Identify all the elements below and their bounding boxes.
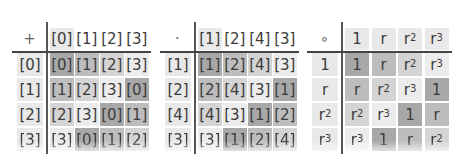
table-cell: [2] xyxy=(248,128,272,151)
table-cell: [4] xyxy=(248,53,272,76)
cayley-table-rotation-composition: ∘1rr2r311rr2r3rrr2r31r2r2r31rr3r31rr2 xyxy=(310,28,451,154)
operator-symbol: · xyxy=(163,28,192,50)
column-header: [2] xyxy=(100,28,124,50)
table-cell: r3 xyxy=(372,103,396,126)
table-cell: [0] xyxy=(75,128,99,151)
horizontal-divider xyxy=(12,51,151,53)
table-cell: r2 xyxy=(372,78,396,101)
horizontal-divider xyxy=(307,51,452,53)
table-cell: [1] xyxy=(273,78,297,101)
row-header: [3] xyxy=(165,128,191,151)
table-cell: [2] xyxy=(125,128,149,151)
row-header: r3 xyxy=(312,128,338,151)
column-header: r xyxy=(372,28,396,50)
table-cell: [1] xyxy=(100,128,124,151)
table-cell: [3] xyxy=(100,78,124,101)
horizontal-divider xyxy=(160,51,299,53)
table-cell: [1] xyxy=(50,78,74,101)
table-cell: [0] xyxy=(50,53,74,76)
table-cell: [3] xyxy=(75,103,99,126)
row-header: 1 xyxy=(312,53,338,76)
row-header: [1] xyxy=(165,53,191,76)
row-header: [0] xyxy=(17,53,43,76)
row-header: r xyxy=(312,78,338,101)
table-cell: 1 xyxy=(345,53,369,76)
column-header: [0] xyxy=(50,28,74,50)
row-header: [2] xyxy=(165,78,191,101)
table-cell: [1] xyxy=(223,128,247,151)
column-header: [4] xyxy=(248,28,272,50)
row-header: [3] xyxy=(17,128,43,151)
column-header: [3] xyxy=(125,28,149,50)
table-cell: [3] xyxy=(125,53,149,76)
table-cell: r xyxy=(398,128,422,151)
table-cell: [0] xyxy=(100,103,124,126)
table-cell: r2 xyxy=(425,128,449,151)
column-header: r2 xyxy=(398,28,422,50)
operator-symbol: + xyxy=(15,28,44,50)
table-cell: [2] xyxy=(75,78,99,101)
table-cell: 1 xyxy=(398,103,422,126)
column-header: 1 xyxy=(345,28,369,50)
table-cell: 1 xyxy=(372,128,396,151)
table-cell: [3] xyxy=(198,128,222,151)
cayley-table-addition-mod-4: +[0][1][2][3][0][0][1][2][3][1][1][2][3]… xyxy=(15,28,150,154)
table-cell: [2] xyxy=(273,103,297,126)
table-cell: r3 xyxy=(425,53,449,76)
table-cell: r2 xyxy=(345,103,369,126)
table-cell: [1] xyxy=(125,103,149,126)
cayley-table-multiplication-mod-5: ·[1][2][4][3][1][1][2][4][3][2][2][4][3]… xyxy=(163,28,298,154)
column-header: [3] xyxy=(273,28,297,50)
row-header: r2 xyxy=(312,103,338,126)
row-header: [1] xyxy=(17,78,43,101)
table-cell: r xyxy=(345,78,369,101)
table-cell: [0] xyxy=(125,78,149,101)
table-cell: [2] xyxy=(100,53,124,76)
vertical-divider xyxy=(46,22,48,154)
table-cell: [2] xyxy=(198,78,222,101)
table-cell: r xyxy=(425,103,449,126)
row-header: [2] xyxy=(17,103,43,126)
table-cell: [4] xyxy=(273,128,297,151)
column-header: [1] xyxy=(198,28,222,50)
table-cell: [3] xyxy=(273,53,297,76)
table-cell: [1] xyxy=(248,103,272,126)
table-cell: [2] xyxy=(50,103,74,126)
column-header: r3 xyxy=(425,28,449,50)
table-cell: r2 xyxy=(398,53,422,76)
table-cell: 1 xyxy=(425,78,449,101)
table-cell: [4] xyxy=(198,103,222,126)
table-cell: r3 xyxy=(398,78,422,101)
table-cell: [2] xyxy=(223,53,247,76)
table-cell: [3] xyxy=(50,128,74,151)
column-header: [1] xyxy=(75,28,99,50)
table-cell: r xyxy=(372,53,396,76)
table-cell: [1] xyxy=(75,53,99,76)
table-cell: [1] xyxy=(198,53,222,76)
table-cell: [3] xyxy=(248,78,272,101)
vertical-divider xyxy=(194,22,196,154)
row-header: [4] xyxy=(165,103,191,126)
table-cell: r3 xyxy=(345,128,369,151)
column-header: [2] xyxy=(223,28,247,50)
table-cell: [4] xyxy=(223,78,247,101)
operator-symbol: ∘ xyxy=(310,28,339,50)
table-cell: [3] xyxy=(223,103,247,126)
vertical-divider xyxy=(341,22,343,154)
